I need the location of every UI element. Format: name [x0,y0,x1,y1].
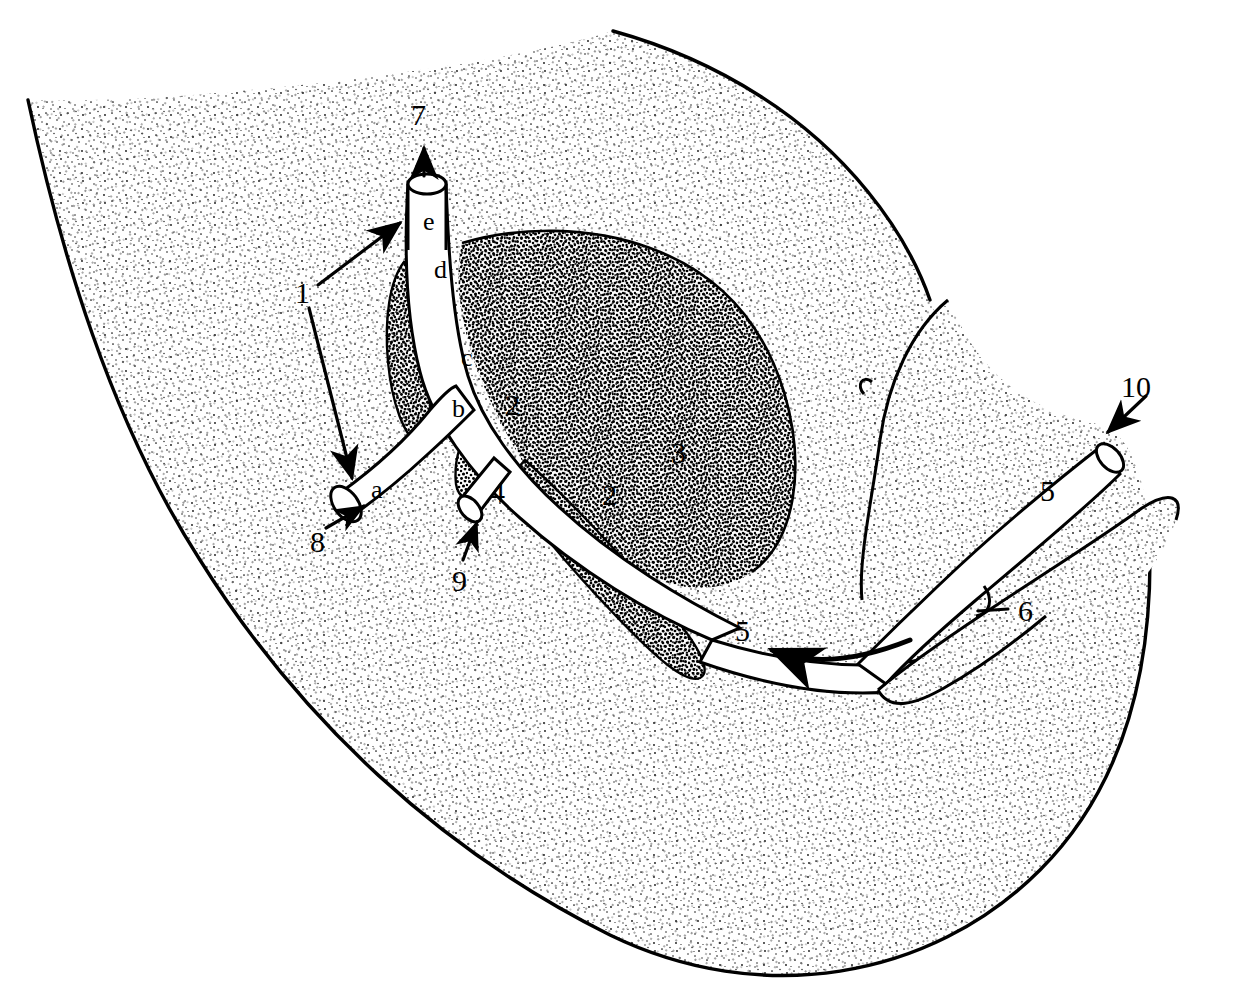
label-2-upper: 2 [505,390,520,420]
label-1: 1 [295,278,310,308]
label-d: d [434,257,447,283]
label-6: 6 [1018,596,1033,626]
label-10: 10 [1121,372,1151,402]
leader-6 [978,609,1008,611]
label-8: 8 [310,527,325,557]
label-5-bottom: 5 [735,616,750,646]
label-9: 9 [452,566,467,596]
label-e: e [423,209,435,235]
label-2-lower: 2 [602,480,617,510]
label-4: 4 [490,477,505,507]
figure-canvas: 1 7 e d c b a 2 2 3 4 8 9 5 5 6 10 [0,0,1238,1001]
label-c: c [461,345,473,371]
label-b: b [452,396,465,422]
label-5-right: 5 [1040,476,1055,506]
label-a: a [371,477,383,503]
label-7: 7 [411,100,426,130]
label-3: 3 [671,438,686,468]
